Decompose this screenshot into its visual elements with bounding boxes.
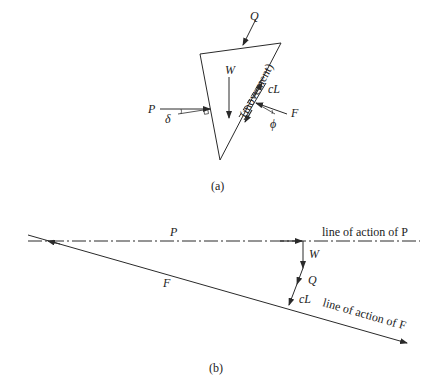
label-p-b: P	[169, 225, 178, 239]
figure-b: P line of action of P F line of action o…	[28, 225, 420, 375]
label-f-b: F	[162, 276, 171, 290]
label-w: W	[225, 63, 236, 77]
force-diagram: Q W (movement) cL P δ F ϕ (a) P	[0, 0, 437, 380]
label-line-p: line of action of P	[322, 225, 408, 239]
caption-b: (b)	[209, 361, 223, 375]
figure-a: Q W (movement) cL P δ F ϕ (a)	[147, 9, 299, 193]
label-phi: ϕ	[270, 117, 276, 131]
line-of-action-f	[28, 235, 407, 343]
label-q-b: Q	[308, 273, 317, 287]
label-q: Q	[250, 9, 259, 23]
p-normal-line	[178, 109, 210, 114]
caption-a: (a)	[211, 179, 224, 193]
cl-vector	[289, 284, 297, 305]
q-vector	[297, 268, 303, 284]
label-cl-b: cL	[299, 292, 311, 306]
label-p: P	[147, 102, 156, 116]
label-w-b: W	[309, 247, 320, 261]
wedge-triangle	[200, 43, 281, 160]
delta-arc	[181, 109, 182, 114]
label-line-f: line of action of F	[321, 295, 408, 332]
label-delta: δ	[165, 112, 171, 126]
label-cl: cL	[268, 82, 280, 96]
label-f: F	[290, 106, 299, 120]
